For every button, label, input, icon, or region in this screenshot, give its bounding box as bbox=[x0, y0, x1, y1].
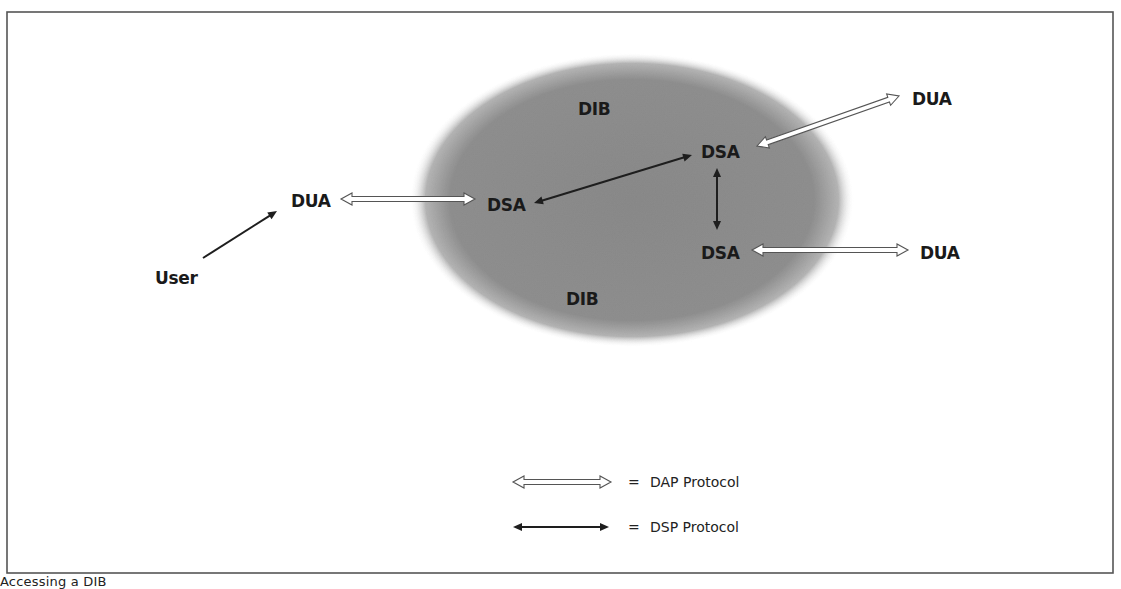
dua-bottom-right-label: DUA bbox=[920, 243, 961, 263]
legend-dsp-label: DSP Protocol bbox=[650, 519, 739, 535]
dib-label-bottom: DIB bbox=[566, 289, 599, 309]
dib-ellipse bbox=[410, 53, 854, 347]
dsa-bottom-label: DSA bbox=[701, 243, 741, 263]
user-label: User bbox=[155, 268, 199, 288]
legend: = DAP Protocol = DSP Protocol bbox=[513, 474, 739, 535]
dua-left-label: DUA bbox=[291, 191, 332, 211]
legend-dap-arrow-icon bbox=[513, 476, 611, 488]
figure-caption: Accessing a DIB bbox=[0, 574, 107, 589]
legend-dap-label: DAP Protocol bbox=[650, 474, 739, 490]
dsa-left-label: DSA bbox=[487, 195, 527, 215]
user-to-dua-arrow-icon bbox=[201, 208, 279, 262]
legend-dap-equals: = bbox=[628, 474, 640, 490]
dsa-top-label: DSA bbox=[701, 142, 741, 162]
legend-dsp-equals: = bbox=[628, 519, 640, 535]
dib-label-top: DIB bbox=[578, 99, 611, 119]
dua-top-right-label: DUA bbox=[912, 89, 953, 109]
legend-dsp-arrow-icon bbox=[513, 523, 609, 531]
